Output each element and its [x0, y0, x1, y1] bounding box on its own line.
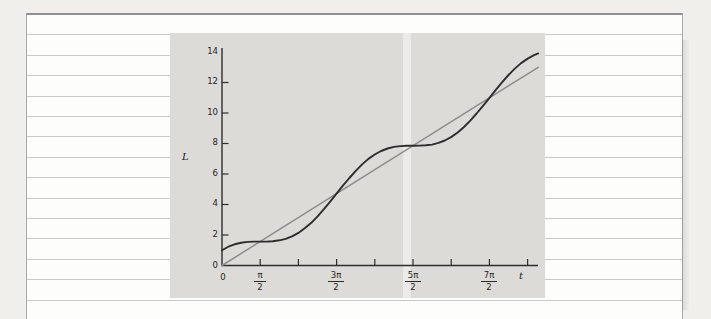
- y-tick-label-14: 14: [192, 46, 218, 57]
- fraction-denominator: 2: [257, 282, 262, 292]
- fraction-numerator: 7π: [481, 271, 498, 282]
- y-tick-label-4: 4: [192, 198, 218, 209]
- fraction-denominator: 2: [333, 282, 338, 292]
- fraction-numerator: 5π: [405, 271, 422, 282]
- x-tick-label-pi-over-2: π 2: [251, 271, 269, 292]
- y-tick-label-2: 2: [192, 229, 218, 240]
- x-axis-label: t: [514, 270, 528, 281]
- x-tick-label-5pi-over-2: 5π 2: [404, 271, 422, 292]
- x-tick-label-7pi-over-2: 7π 2: [480, 271, 498, 292]
- chart-panel: L t 0 2 4 6 8 10 12 14 0 π 2 3π 2 5π 2 7…: [170, 33, 545, 298]
- fraction-numerator: π: [254, 271, 265, 282]
- y-axis-label: L: [182, 151, 189, 162]
- series-1: [222, 53, 538, 250]
- fraction-denominator: 2: [410, 282, 415, 292]
- y-tick-label-10: 10: [192, 107, 218, 118]
- x-tick-label-0: 0: [217, 272, 229, 282]
- fraction-numerator: 3π: [328, 271, 345, 282]
- x-tick-label-3pi-over-2: 3π 2: [327, 271, 345, 292]
- y-tick-label-0: 0: [192, 260, 218, 271]
- axes: [222, 48, 538, 266]
- y-tick-label-12: 12: [192, 76, 218, 87]
- y-tick-label-6: 6: [192, 168, 218, 179]
- chart-canvas: [170, 33, 545, 298]
- y-tick-label-8: 8: [192, 137, 218, 148]
- page-edge-shadow: [682, 40, 689, 310]
- fraction-denominator: 2: [486, 282, 491, 292]
- screenshot-root: { "page": { "bg_outer": "#f0efec", "bg_p…: [0, 0, 711, 319]
